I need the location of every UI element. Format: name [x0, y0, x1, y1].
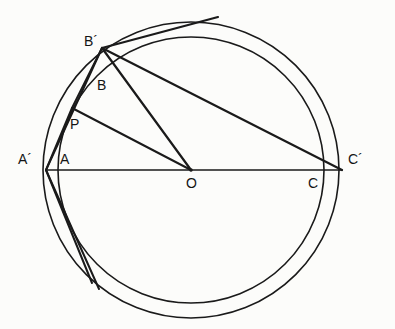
vertex-O [189, 168, 193, 172]
point-label-C-prime: C´ [348, 152, 363, 166]
point-label-O: O [186, 176, 197, 190]
segment-P-to-O [72, 108, 191, 170]
point-label-P: P [70, 117, 79, 131]
vertices-group [189, 168, 193, 172]
point-label-B-prime: B´ [84, 34, 98, 48]
point-label-A-prime: A´ [18, 152, 32, 166]
point-label-A: A [60, 152, 69, 166]
chord-B-prime-to-C-prime [102, 48, 342, 170]
point-label-B: B [97, 78, 106, 92]
radius-B-prime-to-O [102, 48, 191, 170]
chord-A-prime-to-lower-arc [46, 170, 92, 283]
point-label-C: C [308, 176, 318, 190]
chord-B-prime-to-arc-top [102, 17, 218, 48]
geometry-figure: A´AB´BPOCC´ [0, 0, 395, 329]
